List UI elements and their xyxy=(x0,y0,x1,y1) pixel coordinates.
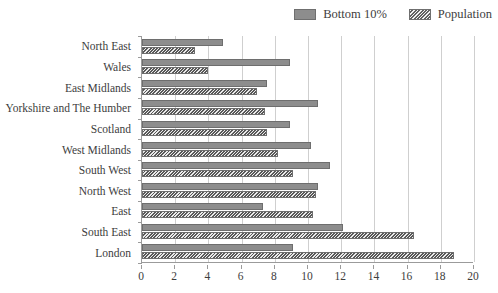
y-axis-label: North West xyxy=(0,180,137,201)
plot-area xyxy=(141,36,473,263)
x-axis-tick xyxy=(274,265,275,269)
y-axis-label: East Midlands xyxy=(0,77,137,98)
x-axis-tick xyxy=(241,265,242,269)
bar-bottom10 xyxy=(142,59,290,66)
bar-bottom10 xyxy=(142,162,330,169)
bar-group xyxy=(142,36,473,57)
legend-label-population: Population xyxy=(438,8,492,21)
x-axis-tick-label: 20 xyxy=(467,270,479,282)
x-axis-tick-label: 8 xyxy=(271,270,277,282)
bar-group xyxy=(142,159,473,180)
x-axis-tick xyxy=(340,265,341,269)
bar-bottom10 xyxy=(142,183,318,190)
x-axis-tick xyxy=(473,265,474,269)
bar-group xyxy=(142,180,473,201)
bar-population xyxy=(142,88,257,95)
bar-population xyxy=(142,191,316,198)
x-axis-tick-label: 6 xyxy=(238,270,244,282)
y-axis-label: London xyxy=(0,242,137,263)
x-axis-tick xyxy=(373,265,374,269)
bar-population xyxy=(142,129,267,136)
bar-population xyxy=(142,67,208,74)
x-axis-tick-label: 4 xyxy=(205,270,211,282)
chart-legend: Bottom 10% Population xyxy=(294,8,492,21)
legend-swatch-icon-population xyxy=(409,9,431,20)
bar-group xyxy=(142,57,473,78)
bar-bottom10 xyxy=(142,224,343,231)
bar-population xyxy=(142,170,293,177)
bar-population xyxy=(142,150,278,157)
plot-wrapper: North EastWalesEast MidlandsYorkshire an… xyxy=(0,36,498,293)
bar-bottom10 xyxy=(142,80,267,87)
x-axis-tick-label: 14 xyxy=(368,270,380,282)
bar-bottom10 xyxy=(142,121,290,128)
legend-label-bottom10: Bottom 10% xyxy=(323,8,387,21)
legend-entry-bottom10: Bottom 10% xyxy=(294,8,387,21)
bar-population xyxy=(142,211,313,218)
x-axis-tick xyxy=(407,265,408,269)
x-axis-tick xyxy=(141,265,142,269)
bar-bottom10 xyxy=(142,39,223,46)
y-axis-tick xyxy=(138,263,142,264)
x-axis-tick xyxy=(207,265,208,269)
y-axis-category-labels: North EastWalesEast MidlandsYorkshire an… xyxy=(0,36,137,263)
y-axis-label: Scotland xyxy=(0,119,137,140)
bar-bottom10 xyxy=(142,142,311,149)
bar-group xyxy=(142,77,473,98)
y-axis-label: Wales xyxy=(0,57,137,78)
x-axis-tick xyxy=(174,265,175,269)
y-axis-label: West Midlands xyxy=(0,139,137,160)
bar-group xyxy=(142,241,473,262)
x-axis-tick-label: 12 xyxy=(334,270,346,282)
y-axis-label: South East xyxy=(0,222,137,243)
legend-swatch-icon-bottom10 xyxy=(294,9,316,20)
x-axis-tick xyxy=(307,265,308,269)
x-axis-tick-label: 10 xyxy=(301,270,313,282)
legend-entry-population: Population xyxy=(409,8,492,21)
bar-bottom10 xyxy=(142,244,293,251)
y-axis-label: East xyxy=(0,201,137,222)
bar-group xyxy=(142,118,473,139)
bar-bottom10 xyxy=(142,100,318,107)
bar-population xyxy=(142,232,414,239)
grid-line xyxy=(474,36,475,262)
bar-group xyxy=(142,139,473,160)
bar-group xyxy=(142,221,473,242)
y-axis-label: North East xyxy=(0,36,137,57)
y-axis-label: Yorkshire and The Humber xyxy=(0,98,137,119)
x-axis-tick-label: 2 xyxy=(171,270,177,282)
bar-group xyxy=(142,98,473,119)
bar-group xyxy=(142,200,473,221)
x-axis-tick-label: 16 xyxy=(401,270,413,282)
bar-chart: Bottom 10% Population North EastWalesEas… xyxy=(0,0,498,293)
x-axis-tick-label: 18 xyxy=(434,270,446,282)
bar-bottom10 xyxy=(142,203,263,210)
bar-population xyxy=(142,108,265,115)
bar-rows xyxy=(142,36,473,262)
x-axis-tick-label: 0 xyxy=(138,270,144,282)
x-axis-tick xyxy=(440,265,441,269)
bar-population xyxy=(142,47,195,54)
x-axis-tick-labels: 02468101214161820 xyxy=(141,265,473,285)
bar-population xyxy=(142,252,454,259)
y-axis-label: South West xyxy=(0,160,137,181)
